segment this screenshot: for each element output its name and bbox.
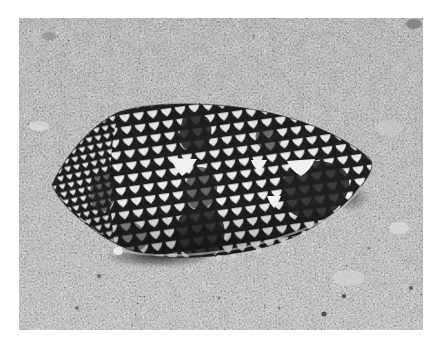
image-frame	[0, 0, 439, 345]
photograph	[19, 18, 423, 330]
cone-shell-photo	[19, 18, 423, 330]
shell-siphonal-tip	[113, 247, 123, 255]
